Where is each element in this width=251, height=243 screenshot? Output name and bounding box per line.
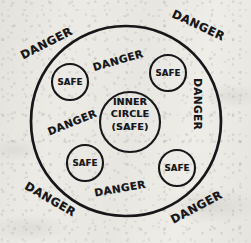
inner-circle-line-1: INNER: [100, 96, 160, 108]
inner-circle-line-3: (SAFE): [100, 121, 160, 133]
safe-label-bottom-left: SAFE: [67, 157, 103, 169]
inner-circle-label: INNER CIRCLE (SAFE): [100, 96, 160, 133]
safe-label-top-right: SAFE: [150, 67, 186, 79]
inner-circle-line-2: CIRCLE: [100, 108, 160, 120]
danger-label-inner-right: DANGER: [192, 78, 204, 130]
safe-label-top-left: SAFE: [52, 76, 88, 88]
safe-label-bottom-right: SAFE: [159, 162, 195, 174]
diagram-canvas: DANGER DANGER DANGER DANGER DANGER DANGE…: [0, 0, 251, 243]
